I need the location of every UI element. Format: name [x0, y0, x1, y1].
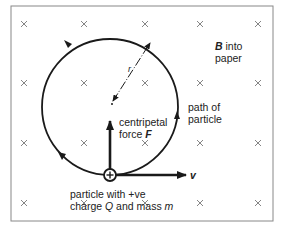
- field-cross-icon: [197, 140, 203, 146]
- field-cross-icon: [21, 21, 27, 27]
- field-cross-icon: [142, 21, 148, 27]
- path-label-line2: particle: [188, 113, 222, 125]
- field-cross-icon: [81, 21, 87, 27]
- field-cross-icon: [255, 21, 261, 27]
- path-direction-arrows: [58, 40, 180, 160]
- field-cross-icon: [255, 80, 261, 86]
- particle-label: particle with +ve charge Q and mass m: [70, 188, 173, 212]
- path-arrowhead-icon: [174, 111, 180, 119]
- field-cross-icon: [81, 80, 87, 86]
- path-arrowhead-icon: [64, 40, 72, 48]
- particle-label-middle: and mass: [113, 200, 164, 212]
- field-cross-icon: [197, 200, 203, 206]
- field-cross-icon: [142, 140, 148, 146]
- circle-center-dot: [111, 103, 113, 105]
- charge-symbol: Q: [105, 200, 113, 212]
- field-cross-icon: [197, 21, 203, 27]
- field-cross-icon: [81, 140, 87, 146]
- radius-label: r: [128, 63, 131, 75]
- particle-label-line1: particle with +ve: [70, 188, 146, 200]
- field-symbol: B: [215, 40, 223, 52]
- field-label-line2: paper: [215, 52, 242, 64]
- velocity-label: v: [190, 169, 196, 181]
- force-label: centripetal force F: [119, 116, 167, 140]
- mass-symbol: m: [165, 200, 174, 212]
- force-symbol: F: [145, 128, 151, 140]
- force-label-prefix: force: [119, 128, 145, 140]
- field-cross-icon: [21, 80, 27, 86]
- field-label: B into paper: [215, 40, 242, 64]
- velocity-symbol: v: [190, 169, 196, 181]
- field-cross-icon: [255, 200, 261, 206]
- field-cross-icon: [21, 200, 27, 206]
- field-cross-icon: [142, 80, 148, 86]
- force-label-line1: centripetal: [119, 116, 167, 128]
- radius-symbol: r: [128, 64, 131, 74]
- positive-particle-icon: [104, 169, 116, 181]
- path-label-line1: path of: [188, 101, 220, 113]
- path-label: path of particle: [188, 101, 222, 125]
- radius-arrow: [113, 43, 150, 101]
- field-cross-icon: [21, 140, 27, 146]
- field-label-rest: into: [223, 40, 243, 52]
- field-cross-icon: [255, 140, 261, 146]
- particle-label-prefix: charge: [70, 200, 105, 212]
- field-cross-icon: [197, 80, 203, 86]
